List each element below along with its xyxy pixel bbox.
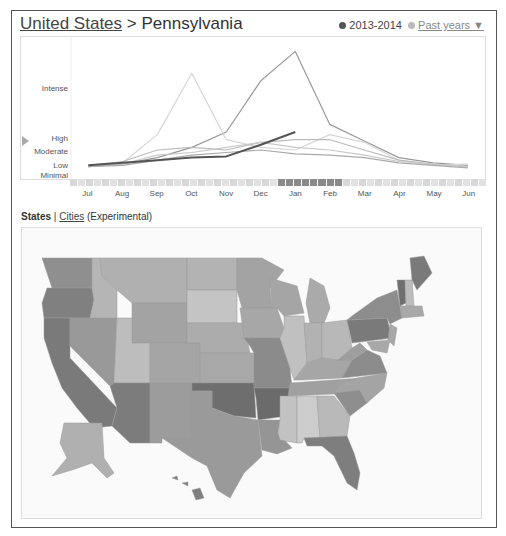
week-cell[interactable] [166, 179, 173, 186]
week-cell[interactable] [230, 179, 237, 186]
week-cell[interactable] [318, 179, 325, 186]
week-cell[interactable] [174, 179, 181, 186]
week-cell[interactable] [399, 179, 406, 186]
week-cell[interactable] [70, 179, 77, 186]
week-cell[interactable] [214, 179, 221, 186]
tab-cities[interactable]: Cities [59, 211, 84, 222]
week-cell[interactable] [455, 179, 462, 186]
week-timeline-strip[interactable] [70, 179, 486, 186]
week-cell[interactable] [310, 179, 317, 186]
state-hawaii[interactable] [172, 476, 204, 500]
view-tabs: States | Cities (Experimental) [21, 211, 152, 222]
state-indiana[interactable] [304, 323, 322, 363]
state-florida[interactable] [304, 436, 360, 490]
week-cell[interactable] [343, 179, 350, 186]
week-cell[interactable] [335, 179, 342, 186]
month-sep: Sep [139, 189, 174, 198]
week-cell[interactable] [206, 179, 213, 186]
week-cell[interactable] [110, 179, 117, 186]
week-cell[interactable] [431, 179, 438, 186]
week-cell[interactable] [118, 179, 125, 186]
state-south-dakota[interactable] [187, 290, 237, 323]
week-cell[interactable] [383, 179, 390, 186]
week-cell[interactable] [94, 179, 101, 186]
state-colorado[interactable] [150, 343, 200, 383]
month-axis: Jul Aug Sep Oct Nov Dec Jan Feb Mar Apr … [70, 189, 486, 198]
week-cell[interactable] [375, 179, 382, 186]
week-cell[interactable] [439, 179, 446, 186]
state-arizona[interactable] [110, 383, 150, 443]
week-cell[interactable] [302, 179, 309, 186]
state-kansas[interactable] [200, 353, 254, 383]
week-cell[interactable] [479, 179, 486, 186]
state-new-hampshire[interactable] [405, 280, 414, 306]
week-cell[interactable] [126, 179, 133, 186]
week-cell[interactable] [447, 179, 454, 186]
week-cell[interactable] [367, 179, 374, 186]
week-cell[interactable] [391, 179, 398, 186]
us-states-map [21, 227, 482, 519]
month-jun: Jun [451, 189, 486, 198]
week-cell[interactable] [423, 179, 430, 186]
week-cell[interactable] [327, 179, 334, 186]
month-may: May [417, 189, 452, 198]
week-cell[interactable] [246, 179, 253, 186]
week-cell[interactable] [407, 179, 414, 186]
state-maine[interactable] [410, 256, 432, 290]
state-alabama[interactable] [297, 396, 320, 443]
us-map-svg [22, 228, 482, 519]
tab-separator: | [54, 211, 57, 222]
y-label-minimal: Minimal [20, 171, 68, 180]
week-cell[interactable] [134, 179, 141, 186]
current-season-dot-icon [339, 22, 346, 29]
state-washington[interactable] [42, 258, 92, 288]
state-iowa[interactable] [240, 308, 284, 338]
week-cell[interactable] [102, 179, 109, 186]
tab-states[interactable]: States [21, 211, 51, 222]
week-cell[interactable] [182, 179, 189, 186]
week-cell[interactable] [262, 179, 269, 186]
state-michigan[interactable] [306, 278, 330, 323]
legend-current-season: 2013-2014 [349, 19, 402, 31]
week-cell[interactable] [78, 179, 85, 186]
tab-experimental-note: (Experimental) [87, 211, 152, 222]
state-north-dakota[interactable] [187, 258, 237, 290]
week-cell[interactable] [278, 179, 285, 186]
week-cell[interactable] [86, 179, 93, 186]
breadcrumb-united-states-link[interactable]: United States [20, 14, 122, 33]
flu-activity-chart: Intense High Moderate Low Minimal [20, 36, 486, 180]
line-chart-plot [21, 37, 487, 181]
week-cell[interactable] [359, 179, 366, 186]
week-cell[interactable] [351, 179, 358, 186]
week-cell[interactable] [463, 179, 470, 186]
week-cell[interactable] [270, 179, 277, 186]
y-label-moderate: Moderate [20, 147, 68, 156]
week-cell[interactable] [222, 179, 229, 186]
week-cell[interactable] [286, 179, 293, 186]
series-line [88, 132, 295, 165]
past-years-dropdown[interactable]: Past years ▼ [418, 19, 484, 31]
week-cell[interactable] [150, 179, 157, 186]
state-maryland[interactable] [367, 340, 390, 353]
state-alaska[interactable] [52, 423, 114, 478]
week-cell[interactable] [142, 179, 149, 186]
state-oregon[interactable] [42, 288, 94, 318]
state-mississippi[interactable] [278, 396, 297, 443]
week-cell[interactable] [238, 179, 245, 186]
week-cell[interactable] [294, 179, 301, 186]
state-new-mexico[interactable] [150, 383, 192, 443]
week-cell[interactable] [198, 179, 205, 186]
state-pennsylvania[interactable] [347, 318, 392, 343]
month-aug: Aug [105, 189, 140, 198]
month-mar: Mar [347, 189, 382, 198]
header: United States > Pennsylvania 2013-2014 P… [20, 14, 486, 36]
week-cell[interactable] [254, 179, 261, 186]
month-nov: Nov [209, 189, 244, 198]
month-jul: Jul [70, 189, 105, 198]
week-cell[interactable] [415, 179, 422, 186]
week-cell[interactable] [190, 179, 197, 186]
state-wyoming[interactable] [132, 303, 187, 343]
state-massachusetts[interactable] [400, 306, 424, 318]
week-cell[interactable] [471, 179, 478, 186]
week-cell[interactable] [158, 179, 165, 186]
